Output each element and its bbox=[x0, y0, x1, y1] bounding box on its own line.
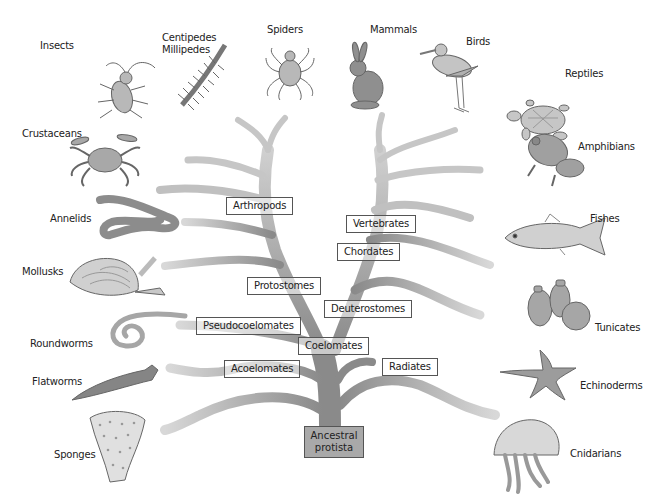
root-label-line1: Ancestral bbox=[307, 430, 361, 442]
roundworm-icon bbox=[113, 314, 185, 346]
label-flatworms: Flatworms bbox=[32, 376, 82, 388]
phylogenetic-tree bbox=[0, 0, 660, 500]
label-mollusks: Mollusks bbox=[22, 266, 63, 278]
label-amphibians: Amphibians bbox=[578, 141, 635, 153]
label-millipedes: Millipedes bbox=[162, 44, 210, 56]
label-fishes: Fishes bbox=[590, 213, 620, 225]
clade-radiates: Radiates bbox=[382, 358, 438, 376]
label-tunicates: Tunicates bbox=[595, 322, 640, 334]
root-label-line2: protista bbox=[307, 442, 361, 454]
turtle-icon bbox=[507, 100, 569, 140]
clade-arthropods: Arthropods bbox=[226, 197, 293, 215]
sponge-icon bbox=[90, 411, 145, 482]
clade-chordates: Chordates bbox=[337, 243, 400, 261]
label-echinoderms: Echinoderms bbox=[580, 380, 643, 392]
label-mammals: Mammals bbox=[370, 24, 417, 36]
label-birds: Birds bbox=[466, 36, 490, 48]
clam-icon bbox=[70, 258, 165, 295]
label-cnidarians: Cnidarians bbox=[570, 448, 621, 460]
clade-acoelomates: Acoelomates bbox=[224, 360, 300, 378]
bird-icon bbox=[420, 44, 478, 112]
flatworm-icon bbox=[72, 365, 158, 400]
root-ancestral-protista: Ancestral protista bbox=[304, 426, 364, 458]
clade-protostomes: Protostomes bbox=[247, 277, 321, 295]
spider-icon bbox=[266, 48, 314, 100]
clade-vertebrates: Vertebrates bbox=[346, 215, 416, 233]
earthworm-icon bbox=[100, 199, 175, 235]
frog-icon bbox=[524, 129, 584, 186]
label-insects: Insects bbox=[40, 40, 74, 52]
beetle-icon bbox=[98, 63, 155, 119]
rabbit-icon bbox=[350, 42, 383, 109]
label-crustaceans: Crustaceans bbox=[22, 128, 82, 140]
label-sponges: Sponges bbox=[54, 449, 95, 461]
jellyfish-icon bbox=[494, 420, 559, 492]
tunicate-icon bbox=[528, 280, 590, 330]
label-reptiles: Reptiles bbox=[565, 68, 603, 80]
clade-coelomates: Coelomates bbox=[298, 337, 369, 355]
clade-pseudocoelomates: Pseudocoelomates bbox=[196, 317, 301, 335]
label-annelids: Annelids bbox=[50, 213, 91, 225]
tree-branches bbox=[160, 115, 495, 430]
label-roundworms: Roundworms bbox=[30, 338, 93, 350]
clade-deuterostomes: Deuterostomes bbox=[324, 300, 412, 318]
label-spiders: Spiders bbox=[267, 24, 303, 36]
starfish-icon bbox=[500, 350, 576, 400]
label-centipedes: Centipedes bbox=[162, 32, 216, 44]
crab-icon bbox=[70, 133, 140, 186]
